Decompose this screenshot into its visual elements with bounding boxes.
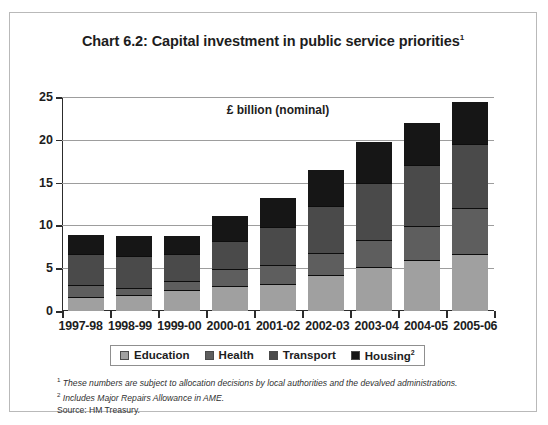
bar-group[interactable] [260,198,296,311]
bar-group[interactable] [308,170,344,311]
bar-segment-education[interactable] [116,296,152,311]
x-tick-mark [206,311,208,318]
y-tick-label-15: 15 [39,176,53,190]
bar-segment-housing[interactable] [308,170,344,207]
y-tick-label-0: 0 [46,304,53,318]
legend-item-transport[interactable]: Transport [269,349,336,361]
bar-group[interactable] [356,142,392,311]
footnotes-block: 1 These numbers are subject to allocatio… [57,374,517,417]
bar-segment-transport[interactable] [404,166,440,227]
legend-swatch-icon [120,351,129,360]
legend-label: Housing2 [365,349,415,362]
chart-legend: EducationHealthTransportHousing2 [110,345,425,366]
footnote: 1 These numbers are subject to allocatio… [57,374,517,389]
bar-segment-education[interactable] [68,298,104,311]
bar-segment-transport[interactable] [260,228,296,266]
x-tick-mark [302,311,304,318]
bar-group[interactable] [452,102,488,311]
x-tick-label: 1999-00 [155,319,203,333]
bar-segment-housing[interactable] [404,123,440,166]
x-axis-ticks [62,311,494,318]
y-tick-label-25: 25 [39,90,53,104]
x-tick-mark [254,311,256,318]
bar-segment-health[interactable] [308,254,344,276]
bar-segment-health[interactable] [356,241,392,269]
x-tick-label: 2003-04 [353,319,401,333]
bar-segment-health[interactable] [68,286,104,298]
x-tick-mark [398,311,400,318]
bar-segment-housing[interactable] [260,198,296,227]
legend-label: Education [134,349,190,361]
bar-segment-education[interactable] [404,261,440,311]
bar-segment-housing[interactable] [164,236,200,255]
x-tick-label: 2001-02 [254,319,302,333]
x-tick-label: 2004-05 [402,319,450,333]
legend-item-health[interactable]: Health [205,349,254,361]
x-tick-mark [110,311,112,318]
x-tick-label: 1997-98 [57,319,105,333]
bar-segment-health[interactable] [452,209,488,255]
x-tick-label: 2005-06 [451,319,499,333]
bar-segment-housing[interactable] [116,236,152,257]
bar-segment-transport[interactable] [116,257,152,289]
bar-segment-health[interactable] [212,270,248,287]
bar-segment-education[interactable] [260,285,296,311]
bar-series-container [62,97,494,311]
legend-swatch-icon [351,351,360,360]
bar-segment-housing[interactable] [452,102,488,145]
bar-segment-health[interactable] [260,266,296,286]
x-tick-label: 1998-99 [106,319,154,333]
bar-group[interactable] [404,123,440,311]
bar-segment-education[interactable] [212,287,248,311]
bar-segment-housing[interactable] [68,235,104,255]
chart-figure: Chart 6.2: Capital investment in public … [9,12,537,412]
source-line: Source: HM Treasury. [57,405,517,417]
bar-segment-transport[interactable] [356,184,392,241]
x-tick-mark [62,311,64,318]
y-tick-label-5: 5 [46,261,53,275]
y-tick-label-10: 10 [39,218,53,232]
legend-swatch-icon [205,351,214,360]
footnote-marker: 1 [57,376,60,383]
bar-segment-education[interactable] [308,276,344,311]
x-tick-mark [158,311,160,318]
legend-label: Transport [283,349,336,361]
bar-segment-transport[interactable] [308,207,344,254]
footnote-marker: 2 [57,391,60,398]
legend-label: Health [219,349,254,361]
chart-title-footnote-marker: 1 [460,33,464,42]
bar-segment-health[interactable] [404,227,440,261]
x-tick-label: 2000-01 [205,319,253,333]
x-tick-mark [350,311,352,318]
legend-item-housing[interactable]: Housing2 [351,349,415,362]
x-tick-label: 2002-03 [303,319,351,333]
legend-item-education[interactable]: Education [120,349,190,361]
bar-group[interactable] [68,235,104,311]
bar-segment-education[interactable] [356,268,392,311]
bar-segment-health[interactable] [164,282,200,292]
x-tick-mark [494,311,496,318]
bar-segment-education[interactable] [164,291,200,311]
plot-area: £ billion (nominal) 0510152025 [62,97,494,311]
bar-segment-housing[interactable] [212,216,248,243]
bar-segment-transport[interactable] [68,255,104,286]
bar-group[interactable] [116,236,152,311]
x-tick-mark [446,311,448,318]
bar-segment-housing[interactable] [356,142,392,184]
y-tick-label-20: 20 [39,133,53,147]
bar-segment-transport[interactable] [164,255,200,282]
bar-segment-education[interactable] [452,255,488,311]
chart-title: Chart 6.2: Capital investment in public … [10,33,536,49]
chart-title-text: Chart 6.2: Capital investment in public … [82,33,460,49]
bar-segment-transport[interactable] [212,242,248,270]
bar-segment-health[interactable] [116,289,152,297]
footnote: 2 Includes Major Repairs Allowance in AM… [57,389,517,404]
x-axis-labels: 1997-981998-991999-002000-012001-022002-… [56,319,500,333]
bar-group[interactable] [212,216,248,311]
bar-group[interactable] [164,236,200,311]
bar-segment-transport[interactable] [452,145,488,209]
legend-swatch-icon [269,351,278,360]
